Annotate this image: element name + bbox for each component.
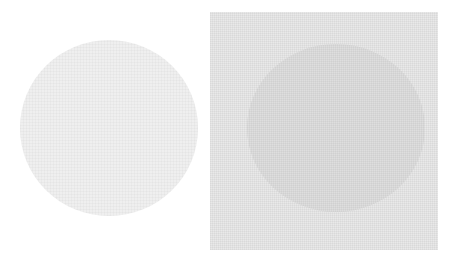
gray-square	[210, 12, 438, 250]
illusion-figure	[0, 0, 452, 267]
gray-circle-on-gray-square	[247, 44, 425, 212]
light-circle-on-white	[20, 40, 198, 216]
